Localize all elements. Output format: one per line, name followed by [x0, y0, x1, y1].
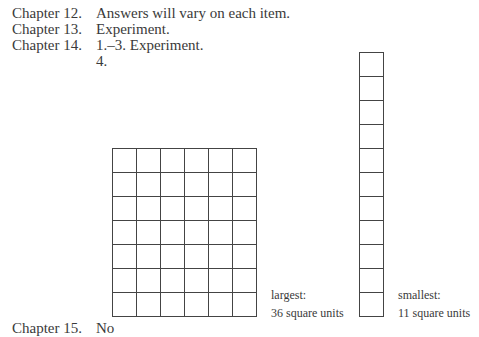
grid-cell: [233, 173, 257, 197]
grid-cell: [185, 293, 209, 317]
answer-text: 1.–3. Experiment.: [96, 36, 203, 54]
grid-cell: [360, 197, 384, 221]
grid-cell: [137, 245, 161, 269]
grid-cell: [137, 269, 161, 293]
grid-cell: [113, 269, 137, 293]
grid-cell: [209, 245, 233, 269]
grid-cell: [209, 221, 233, 245]
grid-cell: [209, 269, 233, 293]
smallest-label: smallest:: [398, 286, 441, 304]
chapter-15-label: Chapter 15.: [12, 319, 82, 337]
grid-cell: [161, 221, 185, 245]
grid-cell: [233, 293, 257, 317]
grid-cell: [161, 149, 185, 173]
grid-cell: [185, 197, 209, 221]
grid-cell: [209, 173, 233, 197]
grid-cell: [161, 269, 185, 293]
grid-cell: [185, 245, 209, 269]
grid-cell: [360, 245, 384, 269]
grid-cell: [113, 293, 137, 317]
grid-cell: [137, 221, 161, 245]
chapter-label: Chapter 14.: [12, 36, 82, 54]
grid-cell: [137, 293, 161, 317]
largest-rectangle-grid: [112, 148, 257, 317]
largest-label: largest:: [271, 286, 306, 304]
grid-cell: [185, 221, 209, 245]
grid-cell: [113, 197, 137, 221]
grid-cell: [360, 77, 384, 101]
grid-cell: [113, 245, 137, 269]
grid-cell: [161, 245, 185, 269]
grid-cell: [137, 149, 161, 173]
chapter-15-text: No: [96, 319, 114, 337]
grid-cell: [360, 53, 384, 77]
grid-cell: [360, 149, 384, 173]
grid-cell: [209, 197, 233, 221]
grid-cell: [209, 293, 233, 317]
smallest-area: 11 square units: [398, 304, 470, 322]
grid-cell: [360, 125, 384, 149]
largest-area: 36 square units: [271, 304, 344, 322]
grid-cell: [360, 101, 384, 125]
answer-text: 4.: [96, 52, 107, 70]
grid-cell: [161, 197, 185, 221]
grid-cell: [185, 269, 209, 293]
grid-cell: [113, 173, 137, 197]
grid-cell: [161, 173, 185, 197]
grid-cell: [161, 293, 185, 317]
grid-cell: [137, 173, 161, 197]
grid-cell: [360, 221, 384, 245]
grid-cell: [113, 149, 137, 173]
grid-cell: [233, 149, 257, 173]
grid-cell: [233, 197, 257, 221]
grid-cell: [185, 173, 209, 197]
grid-cell: [113, 221, 137, 245]
grid-cell: [233, 245, 257, 269]
grid-cell: [185, 149, 209, 173]
grid-cell: [137, 197, 161, 221]
grid-cell: [209, 149, 233, 173]
grid-cell: [233, 221, 257, 245]
grid-cell: [233, 269, 257, 293]
grid-cell: [360, 269, 384, 293]
grid-cell: [360, 293, 384, 317]
grid-cell: [360, 173, 384, 197]
smallest-rectangle-column: [359, 52, 384, 317]
